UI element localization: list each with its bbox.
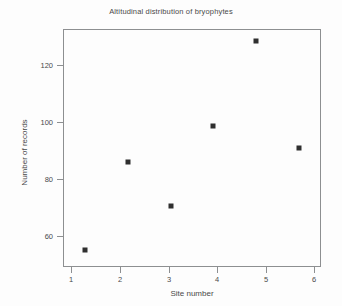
y-tick-label-100: 100 [13, 118, 53, 127]
x-tick-mark-4 [217, 267, 218, 273]
y-tick-label-80: 80 [13, 175, 53, 184]
plot-area [63, 29, 321, 267]
data-point-site-1 [83, 247, 88, 252]
data-point-site-6 [296, 146, 301, 151]
x-tick-label-2: 2 [105, 275, 135, 284]
x-tick-label-1: 1 [56, 275, 86, 284]
x-tick-label-3: 3 [154, 275, 184, 284]
data-point-site-4 [211, 124, 216, 129]
data-point-site-3 [168, 203, 173, 208]
x-tick-mark-6 [314, 267, 315, 273]
y-tick-label-120: 120 [13, 61, 53, 70]
x-tick-label-4: 4 [202, 275, 232, 284]
x-tick-label-5: 5 [251, 275, 281, 284]
x-tick-mark-2 [120, 267, 121, 273]
y-tick-label-60: 60 [13, 232, 53, 241]
chart-title: Altitudinal distribution of bryophytes [0, 7, 342, 16]
y-axis-title: Number of records [20, 83, 29, 223]
x-tick-label-6: 6 [299, 275, 329, 284]
x-tick-mark-5 [266, 267, 267, 273]
scatter-plot-figure: Altitudinal distribution of bryophytes N… [0, 0, 342, 306]
x-tick-mark-3 [169, 267, 170, 273]
data-point-site-5 [254, 38, 259, 43]
x-axis-title: Site number [63, 289, 321, 298]
data-point-site-2 [126, 159, 131, 164]
x-tick-mark-1 [71, 267, 72, 273]
